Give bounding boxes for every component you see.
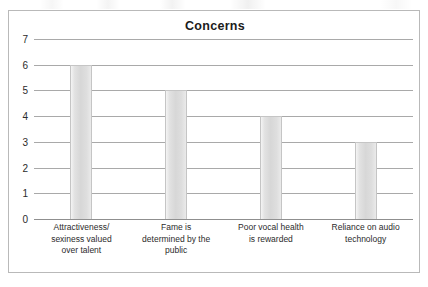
bar [260, 116, 282, 219]
category-label-line: is rewarded [224, 234, 318, 246]
bar [165, 90, 187, 219]
chart-frame: Concerns 76543210 Attractiveness/sexines… [8, 10, 420, 273]
bar [355, 142, 377, 219]
category-axis-label: Fame isdetermined by thepublic [129, 222, 223, 257]
scan-noise-artifact [0, 0, 428, 9]
axis-baseline: 0 [34, 219, 413, 220]
y-axis-tick-label: 3 [22, 136, 28, 147]
category-label-line: determined by the [129, 234, 223, 246]
category-axis-label: Attractiveness/sexiness valuedover talen… [34, 222, 128, 257]
y-axis-tick-label: 6 [22, 59, 28, 70]
category-label-line: Poor vocal health [224, 222, 318, 234]
category-label-line: technology [319, 234, 413, 246]
y-axis-tick-label: 2 [22, 162, 28, 173]
chart-title: Concerns [9, 19, 421, 33]
y-axis-tick-label: 1 [22, 188, 28, 199]
category-label-line: Reliance on audio [319, 222, 413, 234]
gridline: 7 [34, 39, 413, 40]
category-label-line: Attractiveness/ [34, 222, 128, 234]
category-label-line: public [129, 245, 223, 257]
category-axis-label: Poor vocal healthis rewarded [224, 222, 318, 245]
category-label-line: over talent [34, 245, 128, 257]
category-axis-label: Reliance on audiotechnology [319, 222, 413, 245]
y-axis-tick-label: 5 [22, 85, 28, 96]
category-label-line: sexiness valued [34, 234, 128, 246]
plot-area: 76543210 [34, 39, 413, 219]
category-label-line: Fame is [129, 222, 223, 234]
y-axis-tick-label: 7 [22, 34, 28, 45]
bar [70, 65, 92, 219]
category-axis-labels: Attractiveness/sexiness valuedover talen… [34, 222, 413, 270]
y-axis-tick-label: 4 [22, 111, 28, 122]
y-axis-tick-label: 0 [22, 214, 28, 225]
